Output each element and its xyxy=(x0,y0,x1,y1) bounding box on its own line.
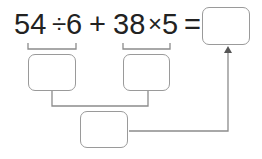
left-bracket xyxy=(28,43,76,49)
right-bracket xyxy=(123,43,170,49)
result-box[interactable] xyxy=(202,7,250,45)
sum-box[interactable] xyxy=(80,111,128,148)
bottom-bracket xyxy=(52,91,148,106)
left-subresult-box[interactable] xyxy=(28,54,76,91)
right-subresult-box[interactable] xyxy=(123,54,170,91)
arrow-head-icon xyxy=(224,46,232,53)
